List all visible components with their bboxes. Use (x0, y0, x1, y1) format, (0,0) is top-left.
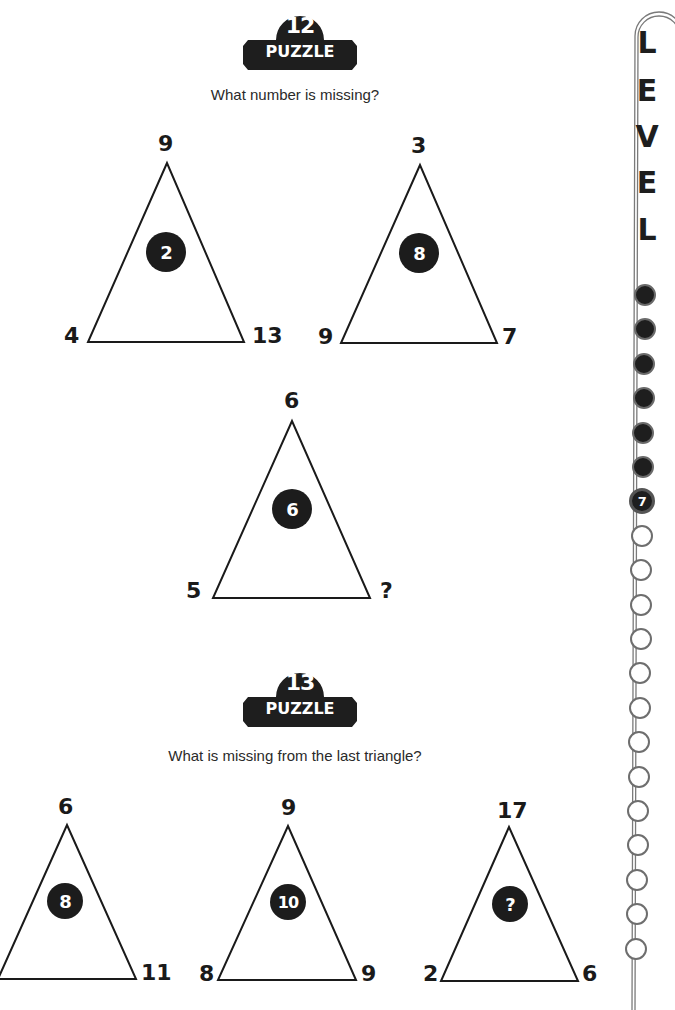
puzzle-label: PUZZLE (240, 699, 360, 718)
vertex-right: 7 (502, 326, 517, 348)
vertex-top: 17 (497, 800, 528, 822)
triangle-outline (0, 0, 675, 1010)
vertex-top: 9 (158, 133, 173, 155)
level-step-empty (626, 869, 648, 891)
vertex-top: 6 (284, 390, 299, 412)
vertex-right: 9 (361, 963, 376, 985)
vertex-top: 9 (281, 797, 296, 819)
vertex-right: 6 (582, 963, 597, 985)
vertex-left: 4 (64, 325, 79, 347)
level-letter-l: L (632, 28, 662, 58)
level-step-empty (625, 938, 647, 960)
level-letter-e: E (632, 168, 662, 198)
level-step-empty (626, 903, 648, 925)
center-value: 6 (272, 489, 312, 529)
vertex-left: 2 (423, 963, 438, 985)
level-letter-l: L (632, 215, 662, 245)
level-step-empty (628, 766, 650, 788)
vertex-top: 3 (411, 135, 426, 157)
level-step-completed (632, 422, 654, 444)
vertex-left: 5 (186, 580, 201, 602)
level-step-empty (629, 697, 651, 719)
level-step-completed (634, 318, 656, 340)
vertex-left: 8 (199, 963, 214, 985)
center-value: 8 (47, 883, 83, 919)
vertex-right: 13 (252, 325, 283, 347)
level-letter-v: V (632, 122, 662, 152)
level-step-completed (632, 456, 654, 478)
level-step-empty (630, 628, 652, 650)
center-value: 2 (146, 232, 186, 272)
center-value: ? (492, 886, 528, 922)
puzzle-13-badge: 13 PUZZLE (240, 667, 360, 731)
level-step-empty (631, 525, 653, 547)
puzzle-12-badge: 12 PUZZLE (240, 10, 360, 74)
level-step-completed (633, 353, 655, 375)
puzzle-number: 13 (240, 670, 360, 695)
level-step-completed (633, 387, 655, 409)
vertex-top: 6 (58, 796, 73, 818)
level-step-empty (630, 594, 652, 616)
vertex-right: ? (380, 580, 393, 602)
puzzle-13-question: What is missing from the last triangle? (0, 747, 590, 764)
level-letter-e: E (632, 76, 662, 106)
vertex-right: 11 (141, 962, 172, 984)
level-step-completed (634, 284, 656, 306)
vertex-left: 9 (318, 326, 333, 348)
center-value: 10 (270, 884, 306, 920)
puzzle-label: PUZZLE (240, 42, 360, 61)
center-value: 8 (399, 233, 439, 273)
puzzle-number: 12 (240, 13, 360, 38)
puzzle-12-question: What number is missing? (0, 86, 590, 103)
